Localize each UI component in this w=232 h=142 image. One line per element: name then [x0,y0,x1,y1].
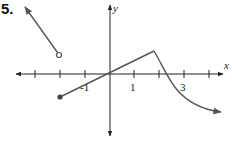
problem-number: 5. [1,0,14,17]
graph-figure: 5. -1 1 3 x y [0,0,232,142]
left-ray [25,7,58,53]
right-curve [154,51,221,112]
x-tick-label-3: 3 [180,81,186,93]
open-circle-endpoint [57,53,62,58]
x-tick-label-1: 1 [130,81,136,93]
closed-dot-endpoint [57,94,62,99]
y-axis-label: y [112,2,118,14]
function-graph: -1 1 3 x y [0,0,232,142]
x-axis-label: x [223,59,229,71]
